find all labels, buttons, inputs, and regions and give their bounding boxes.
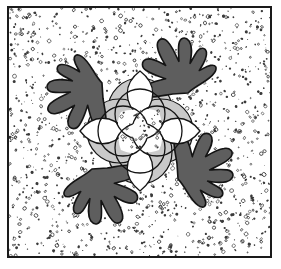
speckle-dot (240, 205, 241, 206)
speckle-dot (20, 119, 22, 122)
speckle-dot (260, 28, 263, 31)
speckle-dot (175, 204, 177, 207)
motif-illustration (0, 0, 281, 269)
speckle-dot (260, 18, 262, 19)
speckle-ring (215, 102, 216, 103)
speckle-ring (68, 49, 69, 50)
speckle-ring (268, 120, 269, 121)
speckle-dot (226, 96, 229, 98)
speckle-ring (246, 214, 247, 215)
speckle-dot (229, 67, 231, 69)
speckle-ring (238, 147, 239, 148)
speckle-dot (57, 157, 60, 160)
speckle-dot (70, 38, 71, 39)
artwork-canvas: Symmetrical Floral Medallion Block (0, 0, 281, 269)
speckle-dot (15, 97, 17, 99)
